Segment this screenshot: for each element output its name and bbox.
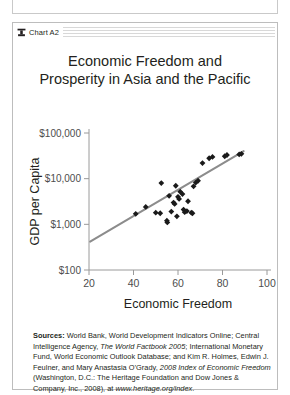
x-axis-tick-label: 20 (83, 277, 95, 289)
data-point (153, 210, 159, 216)
x-axis-tick-label: 100 (258, 277, 276, 289)
partial-panel-above (12, 0, 278, 14)
y-axis-tick-label: $10,000 (45, 173, 82, 184)
sources-label: Sources: (33, 331, 65, 340)
x-axis-title: Economic Freedom (124, 297, 232, 311)
sources-segment: www.heritage.org/index (115, 384, 192, 393)
heritage-foundation-logo-icon (17, 28, 26, 37)
x-axis-tick-label: 80 (217, 277, 229, 289)
sources-note: Sources: World Bank, World Development I… (33, 331, 271, 395)
y-axis-tick-label: $1,000 (50, 219, 81, 230)
sources-body: World Bank, World Development Indicators… (33, 331, 271, 393)
data-point (168, 209, 174, 215)
scatter-plot-svg: $100$1,000$10,000$100,00020406080100Econ… (13, 115, 277, 320)
data-point (185, 198, 191, 204)
plot-area: $100$1,000$10,000$100,00020406080100Econ… (13, 115, 277, 320)
sources-segment: The World Factbook 2005 (100, 342, 185, 351)
x-axis-tick-label: 60 (172, 277, 184, 289)
data-point (200, 160, 206, 166)
chart-panel: Chart A2 Economic Freedom and Prosperity… (12, 22, 278, 390)
y-axis-tick-label: $100,000 (39, 128, 81, 139)
panel-header: Chart A2 (15, 25, 275, 40)
y-axis-tick-label: $100 (59, 265, 82, 276)
y-axis-title: GDP per Capita (28, 157, 42, 245)
data-point (157, 210, 163, 216)
sources-segment: 2008 Index of Economic Freedom (160, 363, 271, 372)
data-point (173, 183, 179, 189)
chart-title: Economic Freedom and Prosperity in Asia … (27, 52, 263, 88)
chart-title-line-2: Prosperity in Asia and the Pacific (27, 70, 263, 88)
x-axis-tick-label: 40 (128, 277, 140, 289)
panel-header-title: Chart A2 (29, 28, 59, 37)
chart-page: Chart A2 Economic Freedom and Prosperity… (0, 0, 290, 395)
panel-header-label-group: Chart A2 (15, 25, 63, 40)
data-point (158, 180, 164, 186)
data-point (174, 213, 180, 219)
sources-segment: . (192, 384, 194, 393)
chart-title-line-1: Economic Freedom and (27, 52, 263, 70)
